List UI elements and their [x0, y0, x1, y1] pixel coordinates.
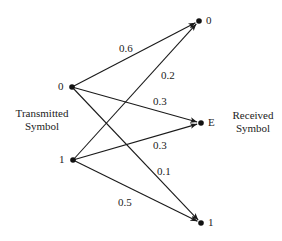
- received-node-e: [198, 120, 204, 126]
- received-node-1: [198, 220, 204, 226]
- edge-probability-t0-rE: 0.3: [153, 95, 167, 107]
- received-node-label-e: E: [208, 116, 215, 128]
- received-title-line1: Received: [225, 109, 281, 122]
- received-node-label-1: 1: [208, 216, 214, 228]
- nodes-group: [69, 18, 204, 226]
- edge-t1-to-rE: [73, 124, 197, 160]
- transmitted-title-line1: Transmitted: [6, 107, 78, 120]
- transmitted-symbol-title: Transmitted Symbol: [6, 107, 78, 133]
- transmitted-title-line2: Symbol: [6, 120, 78, 133]
- received-title-line2: Symbol: [225, 122, 281, 135]
- transmitted-node-label-0: 0: [58, 80, 64, 92]
- received-symbol-title: Received Symbol: [225, 109, 281, 135]
- edge-probability-t1-r1: 0.5: [118, 196, 132, 208]
- edge-probability-t0-r1: 0.1: [157, 165, 171, 177]
- edges-group: [72, 23, 198, 221]
- transmitted-node-0: [69, 84, 75, 90]
- received-node-0: [196, 18, 202, 24]
- edge-probability-t0-r0: 0.6: [119, 42, 133, 54]
- edge-t1-to-r1: [73, 160, 197, 221]
- transmitted-node-label-1: 1: [59, 153, 65, 165]
- edge-t0-to-r1: [72, 87, 198, 220]
- edge-t0-to-r0: [72, 23, 195, 87]
- received-node-label-0: 0: [206, 14, 212, 26]
- edge-probability-t1-r0: 0.2: [161, 69, 175, 81]
- edge-probability-t1-rE: 0.3: [153, 139, 167, 151]
- transmitted-node-1: [70, 157, 76, 163]
